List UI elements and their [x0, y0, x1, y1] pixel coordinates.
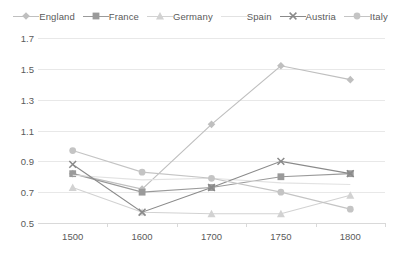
data-point-triangle	[69, 184, 77, 191]
x-axis-tick	[385, 223, 386, 227]
x-axis-tick	[316, 223, 317, 227]
x-axis-tick	[246, 223, 247, 227]
series-austria	[69, 158, 353, 216]
data-point-cross	[69, 161, 76, 168]
data-point-triangle	[346, 191, 354, 198]
x-axis-tick	[107, 223, 108, 227]
line-chart: EnglandFranceGermanySpainAustriaItaly 1.…	[0, 0, 401, 264]
series-italy	[69, 147, 353, 212]
series-layer	[0, 0, 401, 264]
data-point-square	[139, 189, 146, 196]
series-england	[69, 62, 354, 193]
data-point-diamond	[347, 76, 355, 84]
data-point-circle	[208, 175, 215, 182]
data-point-circle	[69, 147, 76, 154]
data-point-square	[278, 173, 285, 180]
x-axis-tick	[177, 223, 178, 227]
data-point-square	[69, 170, 76, 177]
data-point-circle	[139, 169, 146, 176]
data-point-circle	[278, 189, 285, 196]
data-point-circle	[347, 206, 354, 213]
